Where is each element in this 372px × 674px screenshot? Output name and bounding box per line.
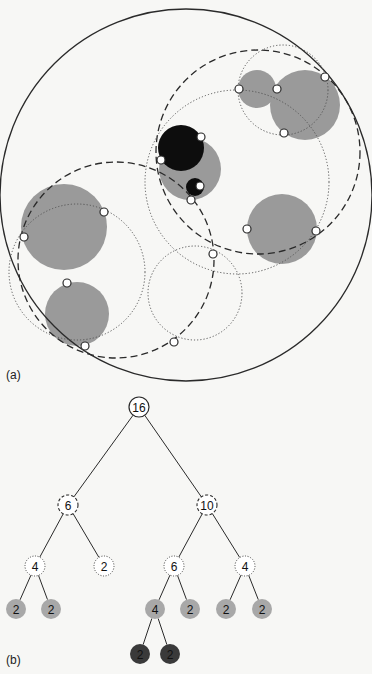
tree-node-l7: 2 (130, 644, 150, 664)
node-label: 2 (101, 560, 108, 574)
tree-edge (230, 575, 241, 600)
node-label: 2 (187, 603, 194, 617)
tree-edge (177, 575, 186, 599)
node-label: 6 (171, 560, 178, 574)
tree-node-l3: 4 (145, 599, 165, 619)
node-label: 16 (132, 401, 146, 415)
tree-node-n10: 10 (197, 495, 217, 515)
marker-point (209, 250, 217, 258)
node-label: 10 (200, 499, 214, 513)
tree-node-n6a: 6 (58, 495, 78, 515)
tree-node-n16: 16 (129, 397, 149, 417)
tree-node-l2: 2 (41, 599, 61, 619)
marker-point (20, 233, 28, 241)
marker-point (100, 208, 108, 216)
marker-point (187, 196, 195, 204)
marker-point (170, 338, 178, 346)
node-label: 4 (242, 560, 249, 574)
node-label: 2 (259, 603, 266, 617)
tree-node-l6: 2 (252, 599, 272, 619)
filled-circle-top-right-large (270, 70, 340, 140)
marker-point (280, 129, 288, 137)
panel-a-circle-packing (0, 9, 372, 381)
tree-edge (74, 415, 133, 497)
node-label: 2 (48, 603, 55, 617)
tree-edge (145, 415, 202, 497)
tree-node-n6b: 6 (164, 556, 184, 576)
tree-edge (159, 575, 170, 600)
node-label: 4 (152, 603, 159, 617)
tree-node-n4a: 4 (25, 556, 45, 576)
tree-node-n4b: 4 (235, 556, 255, 576)
node-label: 6 (65, 499, 72, 513)
marker-point (196, 182, 204, 190)
tree-node-l1: 2 (6, 599, 26, 619)
tree-edge (73, 514, 99, 558)
tree-edge (179, 514, 202, 557)
node-label: 4 (32, 560, 39, 574)
dotted-circle-3 (148, 246, 242, 340)
tree-edge (212, 513, 239, 557)
marker-point (81, 342, 89, 350)
marker-point (197, 133, 205, 141)
tree-edge (38, 575, 47, 599)
marker-point (312, 227, 320, 235)
tree-edge (249, 575, 259, 599)
tree-node-l5: 2 (216, 599, 236, 619)
tree-node-l8: 2 (160, 644, 180, 664)
filled-circle-left-upper-gray (21, 184, 107, 270)
tree-edge (20, 575, 31, 600)
marker-point (157, 156, 165, 164)
panel-b-tree: 16610426422422222 (6, 397, 272, 664)
marker-point (235, 85, 243, 93)
panel-a-label: (a) (6, 368, 21, 382)
tree-node-n2a: 2 (94, 556, 114, 576)
marker-point (273, 85, 281, 93)
marker-point (243, 225, 251, 233)
node-label: 2 (223, 603, 230, 617)
filled-circle-center-black-large (158, 125, 204, 171)
panel-b-label: (b) (6, 653, 21, 667)
figure-canvas: 16610426422422222 (0, 0, 372, 674)
marker-point (63, 279, 71, 287)
node-label: 2 (13, 603, 20, 617)
tree-node-l4: 2 (180, 599, 200, 619)
tree-edge (158, 618, 167, 644)
node-label: 2 (167, 648, 174, 662)
marker-point (321, 73, 329, 81)
tree-edge (143, 618, 152, 644)
tree-edge (40, 514, 63, 557)
node-label: 2 (137, 648, 144, 662)
